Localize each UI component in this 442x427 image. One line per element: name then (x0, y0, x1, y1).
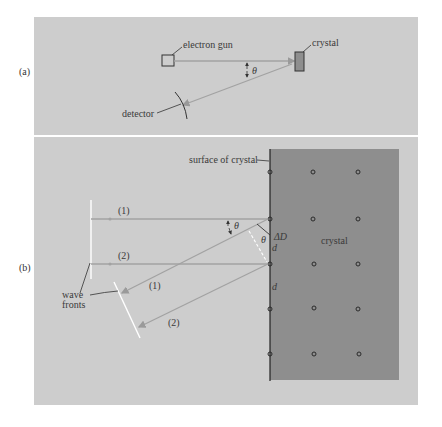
label-ray-1-in: (1) (118, 205, 130, 217)
label-crystal-block: crystal (321, 235, 348, 246)
label-ray-1-out: (1) (149, 280, 161, 292)
crystal-block (270, 149, 399, 380)
reflected-ray-2 (139, 264, 268, 327)
label-angle-1: θ (234, 220, 239, 231)
leader-surface (257, 160, 269, 161)
label-angle-2: θ (261, 234, 266, 245)
crystal-sample-icon (295, 52, 304, 71)
leader-crystal (303, 45, 311, 52)
angle1-arrow-down (229, 228, 231, 234)
label-ray-2-in: (2) (118, 250, 130, 262)
electron-gun-icon (162, 55, 174, 66)
scattered-beam (183, 64, 292, 105)
label-electron-gun: electron gun (183, 39, 233, 50)
label-surface-of-crystal: surface of crystal (189, 154, 258, 165)
label-wave-fronts-line2: fronts (62, 299, 85, 310)
label-delta-d: ΔD (273, 231, 288, 242)
angle-theta-label: θ (252, 65, 257, 76)
panel-a-figure: θ electron gun crystal detector (122, 37, 339, 119)
diagram-canvas: θ electron gun crystal detector crystal … (0, 0, 442, 427)
label-ray-2-out: (2) (168, 317, 180, 329)
leader-wavefront-2 (90, 291, 118, 295)
label-detector: detector (122, 108, 155, 119)
reflected-ray-1 (122, 219, 268, 293)
leader-detector (157, 104, 181, 113)
panel-b-figure: crystal surface of crystal (1) (2) (1) (… (62, 149, 399, 381)
label-crystal: crystal (312, 37, 339, 48)
leader-electron-gun (172, 47, 182, 55)
